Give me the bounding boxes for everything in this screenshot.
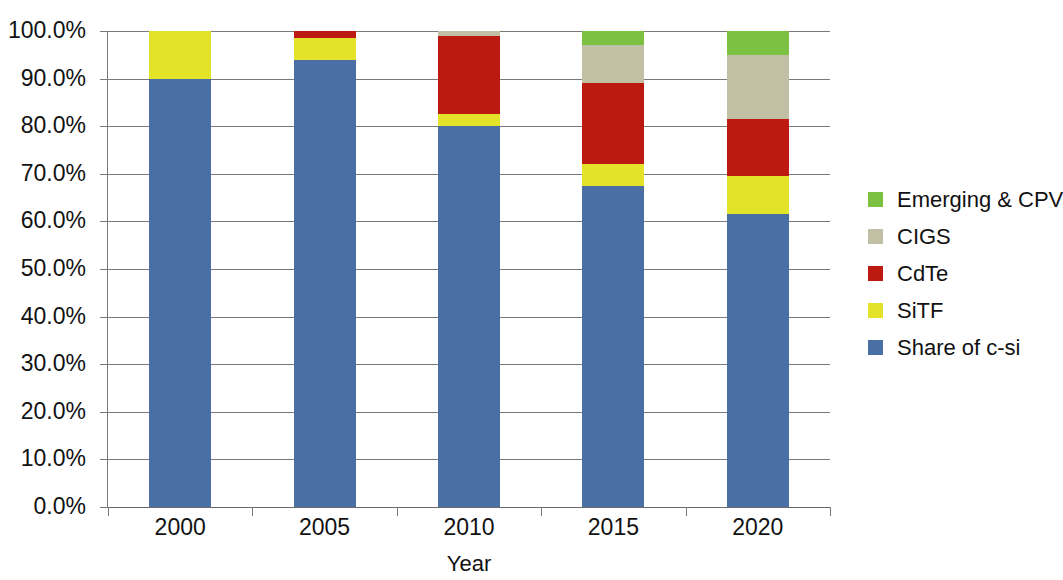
bar-segment-cigs [438, 31, 500, 36]
y-axis-tick [100, 126, 108, 127]
y-axis-tick-label: 0.0% [0, 493, 98, 520]
y-axis-tick [100, 317, 108, 318]
y-axis-tick-label: 70.0% [0, 160, 98, 187]
bar-segment-sitf [438, 114, 500, 126]
x-axis-title: Year [108, 551, 830, 577]
y-axis-tick [100, 364, 108, 365]
y-axis-tick-label: 100.0% [0, 17, 98, 44]
y-axis-tick-label: 30.0% [0, 350, 98, 377]
bar-segment-share-of-c-si [294, 60, 356, 507]
bar-stack [294, 31, 356, 507]
x-axis-tick-label: 2015 [553, 514, 673, 541]
bar-segment-cdte [294, 31, 356, 38]
bar-segment-share-of-c-si [582, 186, 644, 507]
y-axis-tick [100, 412, 108, 413]
bar-stack [438, 31, 500, 507]
bar-stack [149, 31, 211, 507]
x-axis-tick-label: 2005 [265, 514, 385, 541]
legend-swatch-icon [868, 266, 883, 281]
bar-column [294, 31, 356, 507]
legend: Emerging & CPVCIGSCdTeSiTFShare of c-si [868, 183, 1063, 368]
x-axis-tick-label: 2020 [698, 514, 818, 541]
bar-segment-share-of-c-si [727, 214, 789, 507]
y-axis-tick [100, 221, 108, 222]
legend-item: CIGS [868, 220, 1063, 253]
x-axis-tick [252, 507, 253, 516]
gridline [108, 507, 830, 508]
y-axis-tick [100, 174, 108, 175]
y-axis-tick-label: 40.0% [0, 303, 98, 330]
y-axis-tick-label: 60.0% [0, 207, 98, 234]
legend-swatch-icon [868, 229, 883, 244]
bar-segment-sitf [294, 38, 356, 59]
bar-segment-emerging-cpv [582, 31, 644, 45]
y-axis-tick [100, 79, 108, 80]
y-axis-tick [100, 507, 108, 508]
bar-segment-sitf [582, 164, 644, 185]
y-axis-tick-label: 20.0% [0, 398, 98, 425]
legend-item: SiTF [868, 294, 1063, 327]
bar-segment-cdte [438, 36, 500, 115]
bar-stack [582, 31, 644, 507]
legend-item: CdTe [868, 257, 1063, 290]
bar-segment-sitf [149, 31, 211, 79]
x-axis-tick [108, 507, 109, 516]
bar-column [727, 31, 789, 507]
bar-segment-share-of-c-si [149, 79, 211, 507]
legend-item-label: CdTe [897, 261, 948, 287]
bar-segment-cdte [582, 83, 644, 164]
bar-segment-cdte [727, 119, 789, 176]
y-axis-tick [100, 269, 108, 270]
bar-stack [727, 31, 789, 507]
legend-item-label: SiTF [897, 298, 943, 324]
bar-column [582, 31, 644, 507]
bar-segment-emerging-cpv [727, 31, 789, 55]
legend-item-label: CIGS [897, 224, 951, 250]
x-axis-tick [397, 507, 398, 516]
legend-item: Emerging & CPV [868, 183, 1063, 216]
y-axis-tick [100, 459, 108, 460]
bar-segment-sitf [727, 176, 789, 214]
legend-swatch-icon [868, 303, 883, 318]
y-axis-tick [100, 31, 108, 32]
x-axis-tick [830, 507, 831, 516]
bar-segment-cigs [727, 55, 789, 119]
legend-swatch-icon [868, 192, 883, 207]
bar-column [149, 31, 211, 507]
y-axis-tick-label: 10.0% [0, 445, 98, 472]
x-axis-tick-label: 2010 [409, 514, 529, 541]
x-axis-tick-label: 2000 [120, 514, 240, 541]
legend-swatch-icon [868, 340, 883, 355]
legend-item-label: Emerging & CPV [897, 187, 1063, 213]
y-axis-labels: 0.0%10.0%20.0%30.0%40.0%50.0%60.0%70.0%8… [0, 0, 98, 580]
bar-segment-share-of-c-si [438, 126, 500, 507]
y-axis-tick-label: 80.0% [0, 112, 98, 139]
bar-segment-cigs [582, 45, 644, 83]
y-axis-tick-label: 90.0% [0, 65, 98, 92]
y-axis-tick-label: 50.0% [0, 255, 98, 282]
x-axis-tick [686, 507, 687, 516]
bar-column [438, 31, 500, 507]
x-axis-tick [541, 507, 542, 516]
legend-item: Share of c-si [868, 331, 1063, 364]
legend-item-label: Share of c-si [897, 335, 1021, 361]
